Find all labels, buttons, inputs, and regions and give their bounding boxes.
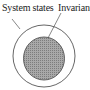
set-diagram bbox=[0, 0, 90, 90]
system-states-leader-line bbox=[12, 19, 20, 29]
invariant-ellipse bbox=[24, 37, 65, 80]
invariant-label: Invariant bbox=[58, 3, 90, 13]
system-states-label: System states bbox=[2, 3, 54, 13]
